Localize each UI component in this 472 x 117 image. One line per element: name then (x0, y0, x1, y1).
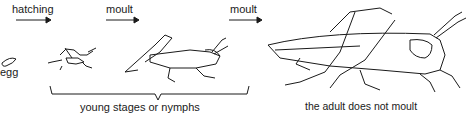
arrow-moult-1-icon (106, 17, 139, 23)
egg-icon (2, 58, 16, 66)
nymph-small-icon (48, 48, 96, 70)
label-egg: egg (0, 66, 18, 78)
label-adult: the adult does not moult (305, 100, 417, 112)
label-moult-1: moult (106, 3, 133, 15)
label-nymphs: young stages or nymphs (80, 101, 200, 113)
arrow-hatching-icon (16, 17, 51, 23)
label-moult-2: moult (230, 3, 257, 15)
adult-grasshopper-icon (268, 8, 466, 92)
label-hatching: hatching (12, 3, 54, 15)
nymph-large-icon (125, 35, 228, 82)
nymph-group-brace-icon (50, 86, 249, 100)
arrow-moult-2-icon (229, 17, 262, 23)
